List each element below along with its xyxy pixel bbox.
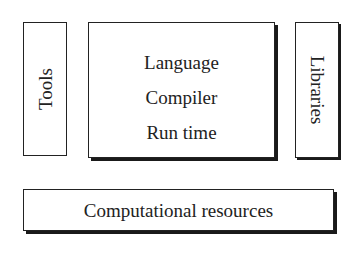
computational-resources-label: Computational resources <box>24 201 333 220</box>
computational-resources-box: Computational resources <box>23 189 334 231</box>
tools-label: Tools <box>36 68 55 110</box>
runtime-label: Run time <box>89 115 274 150</box>
language-label: Language <box>89 45 274 80</box>
tools-box: Tools <box>23 22 67 156</box>
compiler-label: Compiler <box>89 80 274 115</box>
language-compiler-runtime-box: Language Compiler Run time <box>88 22 275 158</box>
libraries-box: Libraries <box>295 22 339 158</box>
core-components-list: Language Compiler Run time <box>89 45 274 150</box>
libraries-label: Libraries <box>308 56 327 125</box>
